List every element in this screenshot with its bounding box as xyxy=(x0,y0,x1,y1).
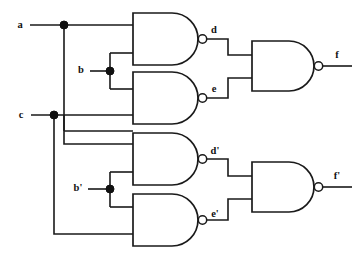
input-label-b-prime: b' xyxy=(74,182,83,193)
output-label-f: f xyxy=(335,49,339,60)
signal-label-e: e xyxy=(212,83,217,94)
junction-c xyxy=(50,111,58,119)
nand-gate-3[interactable] xyxy=(133,133,207,185)
signal-label-d: d xyxy=(211,24,217,35)
nand-gate-2[interactable] xyxy=(133,72,207,124)
signal-label-d-prime: d' xyxy=(211,145,220,156)
wire-dprime-to-gate6 xyxy=(207,159,252,176)
input-wire-c xyxy=(31,115,133,234)
input-wire-a xyxy=(30,25,133,144)
input-label-b: b xyxy=(78,64,84,75)
nand-gate-6[interactable] xyxy=(252,162,323,212)
nand-gate-6-output-bubble xyxy=(314,183,322,191)
input-label-c: c xyxy=(19,109,24,120)
nand-gate-1-output-bubble xyxy=(198,35,206,43)
signal-label-e-prime: e' xyxy=(211,208,219,219)
nand-gate-5-output-bubble xyxy=(314,62,322,70)
junction-b xyxy=(106,67,114,75)
junction-a xyxy=(60,21,68,29)
nand-gate-4[interactable] xyxy=(133,194,207,246)
junction-b-prime xyxy=(106,185,114,193)
nand-gate-1[interactable] xyxy=(133,13,207,65)
input-label-a: a xyxy=(17,19,23,30)
output-label-f-prime: f' xyxy=(334,170,340,181)
nand-gate-5[interactable] xyxy=(252,41,323,91)
wire-d-to-gate5 xyxy=(207,39,252,55)
nand-gate-3-output-bubble xyxy=(198,155,206,163)
circuit-canvas: a b c b' d e d' e' f f' xyxy=(0,0,364,261)
logic-circuit-diagram: a b c b' d e d' e' f f' xyxy=(0,0,364,261)
nand-gate-4-output-bubble xyxy=(198,216,206,224)
nand-gate-2-output-bubble xyxy=(198,94,206,102)
